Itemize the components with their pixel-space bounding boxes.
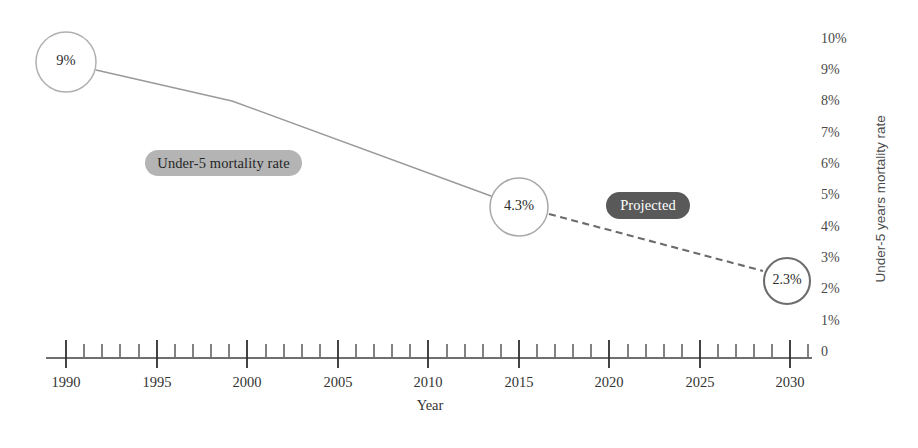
y-tick-label-8: 8% xyxy=(821,93,840,109)
y-tick-label-3: 3% xyxy=(821,250,840,266)
x-tick-label-2025: 2025 xyxy=(670,374,730,391)
x-tick-label-1995: 1995 xyxy=(127,374,187,391)
x-tick-label-2020: 2020 xyxy=(579,374,639,391)
y-tick-label-5: 5% xyxy=(821,187,840,203)
y-tick-label-7: 7% xyxy=(821,125,840,141)
y-tick-label-6: 6% xyxy=(821,156,840,172)
series-label-pill[interactable]: Under-5 mortality rate xyxy=(145,150,302,176)
x-tick-label-2010: 2010 xyxy=(398,374,458,391)
projected-series-line xyxy=(549,214,763,271)
projected-label-pill[interactable]: Projected xyxy=(606,192,690,219)
x-tick-label-2005: 2005 xyxy=(308,374,368,391)
y-axis-title: Under-5 years mortality rate xyxy=(873,123,888,283)
y-tick-label-9: 9% xyxy=(821,62,840,78)
x-tick-label-2015: 2015 xyxy=(489,374,549,391)
data-point-1990-hit[interactable] xyxy=(36,32,96,92)
x-tick-label-1990: 1990 xyxy=(36,374,96,391)
x-axis-title: Year xyxy=(400,397,460,414)
y-tick-label-0: 0 xyxy=(821,344,828,360)
y-tick-label-1: 1% xyxy=(821,313,840,329)
y-tick-label-4: 4% xyxy=(821,219,840,235)
x-tick-label-2030: 2030 xyxy=(760,374,820,391)
y-tick-label-10: 10% xyxy=(821,31,847,47)
y-tick-label-2: 2% xyxy=(821,281,840,297)
x-tick-label-2000: 2000 xyxy=(217,374,277,391)
data-point-2015-hit[interactable] xyxy=(490,178,548,236)
data-point-2030-hit[interactable] xyxy=(764,258,810,304)
chart-container: 9% 4.3% 2.3% Under-5 mortality rate Proj… xyxy=(0,0,918,448)
historical-series-line xyxy=(96,70,491,196)
